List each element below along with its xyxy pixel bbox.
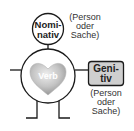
head-label-line2: nativ [33,30,63,40]
head-note-line3: Sache) [66,31,104,40]
left-leg [26,100,37,118]
right-leg [59,100,70,118]
genitiv-label: Geni- tiv [88,64,124,83]
head-label: Nomi- nativ [33,20,63,39]
head-note: (Person oder Sache) [66,13,104,40]
genitiv-note-line3: Sache) [86,107,126,116]
genitiv-note: (Person oder Sache) [86,89,126,116]
genitiv-label-line2: tiv [88,74,124,84]
heart-label: Verb [33,72,63,81]
